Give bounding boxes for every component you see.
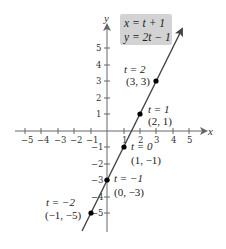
point-marker [121, 144, 126, 149]
point-t-label: t = 1 [148, 103, 169, 115]
x-tick-label: 4 [171, 135, 176, 145]
equation-box: x = t + 1 y = 2t − 1 [120, 14, 172, 45]
x-tick-label: −2 [70, 135, 83, 145]
equation-y: y = 2t − 1 [123, 31, 171, 44]
y-tick-label: −1 [91, 142, 104, 152]
x-axis: x −5 −4 −3 −2 −1 1 2 3 [15, 125, 213, 145]
x-tick-label: −3 [54, 135, 67, 145]
y-tick-label: −3 [91, 175, 104, 185]
x-axis-label: x [207, 125, 213, 137]
point-marker [153, 78, 158, 83]
point-t-label: t = −2 [46, 196, 75, 208]
y-tick-label: 3 [96, 76, 101, 86]
point-coord-label: (1, −1) [131, 154, 161, 167]
y-tick-label: 1 [96, 109, 101, 119]
point-coord-label: (0, −3) [114, 186, 144, 199]
y-tick-label: 4 [96, 60, 101, 70]
point-t-label: t = −1 [114, 172, 143, 184]
y-tick-label: 2 [96, 93, 101, 103]
y-axis-label: y [103, 12, 109, 24]
point-coord-label: (3, 3) [126, 75, 150, 88]
point-t-label: t = 0 [131, 140, 153, 152]
point-t1: t = 1 (2, 1) [137, 103, 172, 128]
x-tick-label: 3 [154, 135, 159, 145]
point-marker [88, 210, 93, 215]
y-axis: y 5 4 3 2 1 −1 −2 −3 [91, 12, 110, 232]
y-tick-label: −2 [91, 159, 104, 169]
y-tick-label: 5 [96, 43, 101, 53]
point-t-neg1: t = −1 (0, −3) [104, 172, 144, 199]
point-marker [104, 177, 109, 182]
point-coord-label: (−1, −5) [45, 209, 82, 222]
point-t-label: t = 2 [124, 63, 146, 75]
point-coord-label: (2, 1) [148, 115, 172, 128]
x-tick-label: 5 [187, 135, 192, 145]
parametric-line-diagram: x = t + 1 y = 2t − 1 x −5 −4 − [0, 0, 226, 249]
equation-x: x = t + 1 [123, 17, 165, 29]
point-marker [137, 111, 142, 116]
point-t2: t = 2 (3, 3) [124, 63, 159, 88]
point-t-neg2: t = −2 (−1, −5) [45, 196, 94, 222]
x-tick-label: −4 [37, 135, 50, 145]
x-tick-label: −5 [21, 135, 34, 145]
